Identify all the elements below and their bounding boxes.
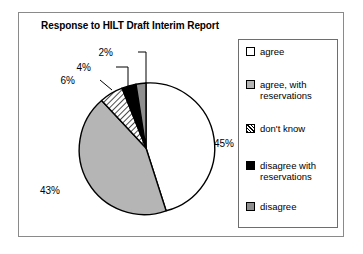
black-square-icon — [246, 161, 255, 170]
chart-legend: agree agree, with reservations don't kno… — [238, 39, 338, 228]
hatched-square-icon — [246, 124, 255, 133]
legend-item-disagree[interactable]: disagree — [246, 201, 296, 212]
legend-item-agree-with-reservations[interactable]: agree, with reservations — [246, 79, 312, 101]
pie-value-label-dont-know: 6% — [61, 75, 76, 86]
legend-item-disagree-with-reservations[interactable]: disagree with reservations — [246, 160, 316, 182]
white-square-icon — [246, 47, 255, 56]
legend-item-label: don't know — [260, 123, 305, 134]
medium-gray-square-icon — [246, 202, 255, 211]
gray-square-icon — [246, 80, 255, 89]
pie-value-label-agree-with-reservations: 43% — [40, 185, 60, 196]
legend-item-dont-know[interactable]: don't know — [246, 123, 305, 134]
legend-item-label: disagree — [260, 201, 296, 212]
legend-item-label: agree — [260, 46, 284, 57]
pie-chart-figure: Response to HILT Draft Interim Report — [0, 0, 363, 254]
pie-value-label-agree: 45% — [214, 138, 234, 149]
pie-slices — [79, 83, 215, 215]
pie-value-label-disagree: 2% — [99, 47, 114, 58]
legend-item-label: agree, with reservations — [260, 79, 312, 101]
legend-item-label: disagree with reservations — [260, 160, 316, 182]
legend-item-agree[interactable]: agree — [246, 46, 284, 57]
pie-value-label-disagree-with-reservations: 4% — [77, 62, 92, 73]
